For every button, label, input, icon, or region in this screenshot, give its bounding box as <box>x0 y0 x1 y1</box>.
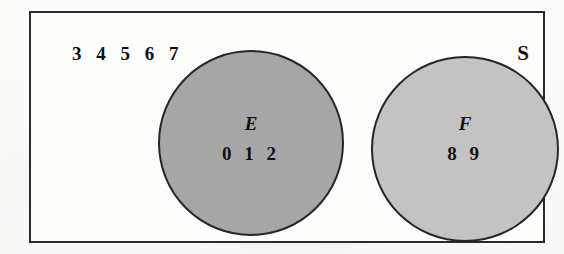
elements-outside-circles: 3 4 5 6 7 <box>72 44 184 63</box>
universal-set-label: S <box>517 43 529 64</box>
set-elements-f: 8 9 <box>373 144 557 163</box>
universal-set-rectangle: 3 4 5 6 7 S E 0 1 2 F 8 9 <box>29 11 545 243</box>
set-label-f: F <box>373 114 557 133</box>
set-circle-e: E 0 1 2 <box>158 50 344 236</box>
set-label-e: E <box>160 114 342 133</box>
set-circle-f: F 8 9 <box>371 56 559 242</box>
set-elements-e: 0 1 2 <box>160 144 342 163</box>
